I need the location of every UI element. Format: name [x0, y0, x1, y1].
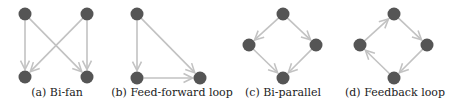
caption-bi-parallel: (c) Bi-parallel — [245, 86, 321, 99]
graph-node — [277, 72, 290, 85]
graph-node — [277, 8, 290, 21]
graph-node — [354, 39, 367, 52]
edge-arrow — [365, 19, 389, 41]
graph-node — [194, 72, 207, 85]
graph-node — [19, 8, 32, 21]
edge-arrow — [254, 50, 278, 73]
graph-node — [19, 71, 32, 84]
graph-node — [131, 8, 144, 21]
graph-node — [131, 72, 144, 85]
graph-node — [243, 39, 256, 52]
graph-node — [81, 8, 94, 21]
graph-node — [388, 8, 401, 21]
edge-arrow — [399, 18, 422, 39]
graph-node — [421, 39, 434, 52]
edge-arrow — [365, 50, 389, 73]
graph-node — [81, 71, 94, 84]
caption-bi-fan: (a) Bi-fan — [31, 86, 83, 99]
caption-feed-forward-loop: (b) Feed-forward loop — [111, 86, 232, 99]
graph-node — [310, 39, 323, 52]
edge-arrow — [142, 19, 195, 73]
edge-arrow — [399, 50, 422, 73]
caption-feedback-loop: (d) Feedback loop — [345, 86, 445, 99]
graph-node — [388, 72, 401, 85]
edge-arrow — [288, 18, 311, 39]
edge-arrow — [288, 50, 311, 73]
edge-arrow — [255, 18, 279, 40]
